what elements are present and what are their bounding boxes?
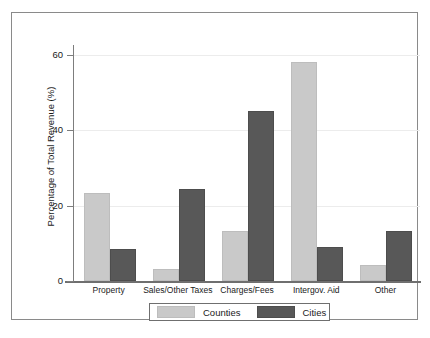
gridline-60 — [74, 55, 420, 56]
legend-label-counties: Counties — [203, 307, 241, 318]
bar-cities-charges-fees — [248, 111, 274, 281]
x-axis-line — [65, 281, 421, 283]
bar-counties-property — [84, 193, 110, 281]
bar-cities-other — [386, 231, 412, 281]
legend-item-counties[interactable]: Counties — [157, 306, 241, 318]
y-tick-label-60: 60 — [32, 49, 63, 60]
bar-counties-intergov-aid — [291, 62, 317, 281]
legend-swatch-cities-icon — [257, 306, 295, 318]
bar-cities-property — [110, 249, 136, 281]
bar-counties-other — [360, 265, 386, 281]
figure-canvas: Percentage of Total Revenue (%) 0204060 … — [0, 0, 430, 338]
chart-frame: Percentage of Total Revenue (%) 0204060 … — [11, 12, 418, 320]
gridline-20 — [74, 206, 420, 207]
y-tick-label-40: 40 — [32, 124, 63, 135]
bar-counties-charges-fees — [222, 231, 248, 281]
y-tick-mark-60 — [67, 55, 74, 56]
chart-legend: Counties Cities — [149, 303, 330, 321]
y-axis-title: Percentage of Total Revenue (%) — [45, 47, 56, 267]
y-tick-mark-40 — [67, 130, 74, 131]
x-tick-label-other: Other — [325, 285, 430, 295]
y-tick-mark-0 — [67, 281, 74, 282]
bar-cities-sales-other-taxes — [179, 189, 205, 281]
gridline-40 — [74, 130, 420, 131]
bar-cities-intergov-aid — [317, 247, 343, 281]
legend-swatch-counties-icon — [157, 306, 195, 318]
legend-item-cities[interactable]: Cities — [257, 306, 327, 318]
y-tick-mark-20 — [67, 206, 74, 207]
legend-label-cities: Cities — [303, 307, 327, 318]
y-tick-label-20: 20 — [32, 200, 63, 211]
bar-counties-sales-other-taxes — [153, 269, 179, 281]
plot-area — [74, 47, 420, 281]
